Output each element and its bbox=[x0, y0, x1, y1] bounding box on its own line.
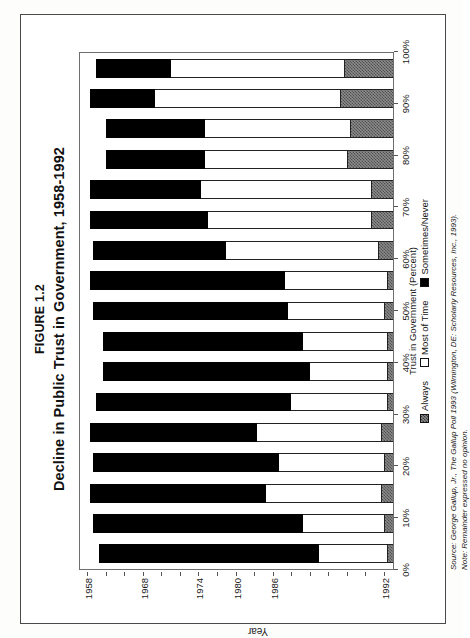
bar-1992 bbox=[99, 544, 393, 563]
year-tick bbox=[346, 572, 347, 576]
segment-always-1974 bbox=[377, 241, 392, 260]
figure-number: FIGURE 1.2 bbox=[32, 22, 48, 616]
year-tick bbox=[383, 572, 384, 576]
bar-1974 bbox=[93, 241, 393, 260]
segment-always-1992 bbox=[386, 544, 392, 563]
source-notes: Source: George Gallup, Jr., The Gallup P… bbox=[448, 214, 470, 570]
bar-1958 bbox=[96, 59, 393, 78]
year-tick bbox=[328, 572, 329, 576]
bars-layer bbox=[84, 53, 393, 569]
year-tick bbox=[124, 572, 125, 576]
segment-most-of-time-1970 bbox=[201, 180, 371, 199]
segment-always-1968 bbox=[346, 150, 392, 169]
segment-always-1984 bbox=[386, 332, 392, 351]
segment-most-of-time-1992 bbox=[318, 544, 386, 563]
year-label-1992: 1992 bbox=[379, 578, 390, 599]
year-tick bbox=[161, 572, 162, 576]
segment-always-1986 bbox=[386, 362, 392, 381]
bar-1984 bbox=[102, 332, 392, 351]
year-tick bbox=[179, 572, 180, 576]
bar-1987 bbox=[96, 393, 393, 412]
year-axis: 199219861980197419681958 bbox=[79, 572, 394, 616]
segment-most-of-time-1990 bbox=[266, 484, 380, 503]
legend-label-most: Most of Time bbox=[419, 301, 430, 355]
segment-sometimes-never-1989 bbox=[93, 453, 278, 472]
bar-1991 bbox=[93, 514, 393, 533]
segment-sometimes-never-1991 bbox=[93, 514, 303, 533]
legend: Always Most of Time Sometimes/Never bbox=[419, 52, 430, 570]
segment-sometimes-never-1990 bbox=[90, 484, 266, 503]
legend-swatch-always-icon bbox=[420, 414, 429, 423]
percent-tick bbox=[394, 103, 398, 104]
legend-label-never: Sometimes/Never bbox=[419, 199, 430, 275]
bar-1989 bbox=[93, 453, 393, 472]
segment-always-1980 bbox=[383, 302, 392, 321]
segment-sometimes-never-1984 bbox=[102, 332, 303, 351]
year-label-1968: 1968 bbox=[138, 578, 149, 599]
segment-always-1989 bbox=[383, 453, 392, 472]
legend-item-never: Sometimes/Never bbox=[419, 199, 430, 287]
note-line: Note: Remainder expressed no opinion. bbox=[459, 214, 470, 570]
bar-1976 bbox=[90, 271, 393, 290]
percent-tick bbox=[394, 206, 398, 207]
bar-1972 bbox=[90, 211, 393, 230]
segment-most-of-time-1987 bbox=[291, 393, 387, 412]
percent-tick bbox=[394, 569, 398, 570]
bar-1964 bbox=[90, 89, 393, 108]
segment-sometimes-never-1972 bbox=[90, 211, 207, 230]
year-tick bbox=[235, 572, 236, 576]
year-tick bbox=[309, 572, 310, 576]
percent-tick bbox=[394, 465, 398, 466]
year-tick bbox=[105, 572, 106, 576]
segment-sometimes-never-1980 bbox=[93, 302, 288, 321]
year-tick bbox=[291, 572, 292, 576]
segment-always-1976 bbox=[386, 271, 392, 290]
segment-always-1988 bbox=[380, 423, 392, 442]
segment-most-of-time-1986 bbox=[309, 362, 386, 381]
bar-1966 bbox=[105, 119, 392, 138]
bar-1970 bbox=[90, 180, 393, 199]
legend-label-always: Always bbox=[419, 381, 430, 411]
percent-tick bbox=[394, 517, 398, 518]
x-axis-title: Trust in Government (Percent) bbox=[407, 52, 418, 570]
legend-swatch-most-icon bbox=[420, 358, 429, 367]
year-tick bbox=[142, 572, 143, 576]
bar-1986 bbox=[102, 362, 392, 381]
title-block: FIGURE 1.2 Decline in Public Trust in Go… bbox=[28, 22, 69, 616]
segment-always-1970 bbox=[371, 180, 393, 199]
year-tick bbox=[254, 572, 255, 576]
percent-tick bbox=[394, 414, 398, 415]
segment-sometimes-never-1988 bbox=[90, 423, 257, 442]
legend-item-most: Most of Time bbox=[419, 301, 430, 367]
y-axis-title: Year bbox=[247, 626, 267, 637]
year-tick bbox=[365, 572, 366, 576]
segment-most-of-time-1968 bbox=[204, 150, 346, 169]
segment-most-of-time-1966 bbox=[204, 119, 349, 138]
bar-1988 bbox=[90, 423, 393, 442]
segment-sometimes-never-1958 bbox=[96, 59, 170, 78]
segment-sometimes-never-1987 bbox=[96, 393, 291, 412]
percent-tick bbox=[394, 258, 398, 259]
segment-most-of-time-1989 bbox=[278, 453, 383, 472]
year-tick bbox=[216, 572, 217, 576]
bar-1990 bbox=[90, 484, 393, 503]
segment-sometimes-never-1970 bbox=[90, 180, 201, 199]
segment-sometimes-never-1974 bbox=[93, 241, 226, 260]
year-label-1958: 1958 bbox=[82, 578, 93, 599]
segment-always-1958 bbox=[343, 59, 392, 78]
percent-tick bbox=[394, 155, 398, 156]
segment-always-1987 bbox=[386, 393, 392, 412]
year-label-1986: 1986 bbox=[268, 578, 279, 599]
segment-most-of-time-1991 bbox=[303, 514, 383, 533]
segment-always-1972 bbox=[371, 211, 393, 230]
segment-most-of-time-1974 bbox=[226, 241, 377, 260]
plot-area: 199219861980197419681958 Year 0%10%20%30… bbox=[79, 52, 436, 570]
segment-sometimes-never-1966 bbox=[105, 119, 204, 138]
legend-item-always: Always bbox=[419, 381, 430, 423]
segment-most-of-time-1958 bbox=[170, 59, 343, 78]
figure: FIGURE 1.2 Decline in Public Trust in Go… bbox=[28, 22, 436, 616]
segment-always-1966 bbox=[349, 119, 392, 138]
percent-tick bbox=[394, 51, 398, 52]
segment-sometimes-never-1992 bbox=[99, 544, 318, 563]
segment-sometimes-never-1986 bbox=[102, 362, 309, 381]
